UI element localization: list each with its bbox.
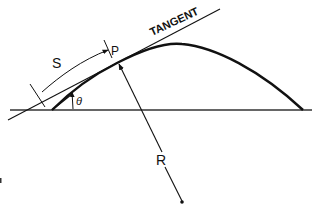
radius-line-lower [165, 167, 182, 201]
angle-label: θ [76, 95, 82, 107]
start-tick [30, 84, 45, 107]
point-label: P [111, 44, 119, 58]
radius-label: R [156, 152, 166, 168]
arc-length-label: S [52, 55, 61, 71]
angle-arrow [72, 92, 73, 109]
radius-line-upper [119, 64, 162, 152]
trajectory-diagram: TANGENT S P θ R [0, 0, 316, 212]
edge-mark [0, 178, 2, 183]
radius-center-dot [180, 200, 184, 204]
launch-segment [52, 94, 72, 110]
